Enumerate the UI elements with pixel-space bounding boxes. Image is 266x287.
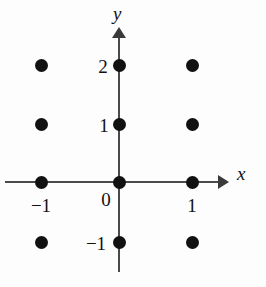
lattice-point [186, 176, 199, 189]
lattice-point [35, 236, 48, 249]
lattice-point [113, 118, 126, 131]
lattice-point [35, 59, 48, 72]
lattice-point [113, 236, 126, 249]
x-tick-label: 1 [172, 196, 212, 215]
x-tick-label: 0 [86, 190, 126, 209]
lattice-point [186, 59, 199, 72]
coordinate-plane-figure: x y −10121−1 [0, 0, 266, 287]
lattice-point [186, 236, 199, 249]
lattice-point [35, 176, 48, 189]
lattice-point [186, 118, 199, 131]
lattice-point [113, 176, 126, 189]
x-axis-arrow-icon [218, 175, 229, 189]
lattice-point [35, 118, 48, 131]
x-tick-label: −1 [21, 196, 61, 215]
x-axis-label: x [237, 164, 245, 183]
y-tick-label: −1 [76, 234, 116, 253]
lattice-point [113, 59, 126, 72]
y-axis-label: y [113, 4, 121, 23]
y-axis-arrow-icon [112, 27, 126, 38]
